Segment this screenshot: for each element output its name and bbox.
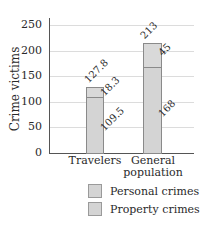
- value-label-general-total: 213: [139, 20, 160, 41]
- legend-label-property: Property crimes: [110, 203, 200, 216]
- legend-item-personal: Personal crimes: [88, 183, 199, 199]
- legend-label-personal: Personal crimes: [110, 185, 199, 198]
- legend-item-property: Property crimes: [88, 201, 200, 217]
- value-label-travelers-personal: 18.3: [99, 75, 122, 98]
- legend-swatch-personal: [88, 184, 102, 198]
- x-tick-travelers: Travelers: [66, 155, 124, 167]
- y-tick-250: 250: [12, 19, 42, 31]
- y-tick-0: 0: [12, 147, 42, 159]
- gridline-250: [49, 25, 194, 26]
- gridline-150: [49, 76, 194, 77]
- gridline-50: [49, 127, 194, 128]
- y-axis: [49, 18, 50, 154]
- x-tick-general-line2: population: [122, 167, 184, 179]
- legend-swatch-property: [88, 202, 102, 216]
- gridline-200: [49, 51, 194, 52]
- y-axis-label: Crime victims: [8, 39, 22, 139]
